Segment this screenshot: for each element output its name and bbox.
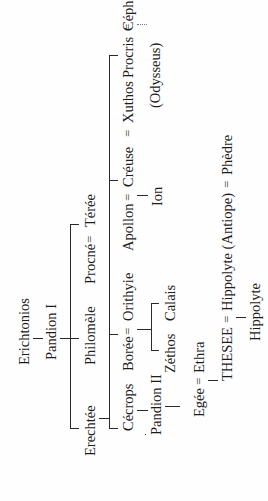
node-egee: Egée [191, 388, 207, 417]
connector-line [208, 380, 218, 381]
connector-line [99, 418, 109, 419]
node-pandion-i: Pandion I [43, 304, 59, 360]
node-xuthos: Xuthos [120, 81, 136, 123]
node-phedre: Phèdre [219, 135, 235, 175]
node-hippolyte: Hippolyte [247, 283, 263, 341]
connector-line [109, 180, 118, 181]
connector-line [33, 338, 43, 339]
connector-line [151, 350, 159, 351]
node-ion: Ion [149, 187, 165, 206]
node-philomele: Philomèle [82, 306, 98, 365]
node-odysseus: (Odysseus) [147, 43, 163, 108]
marriage-symbol: = [219, 181, 235, 188]
node-pandion-ii: Pandion II [148, 374, 164, 435]
node-zethos: Zéthos [162, 334, 178, 373]
marriage-symbol: = [219, 316, 235, 323]
connector-line [137, 195, 148, 196]
connector-line [60, 338, 70, 339]
connector-line [145, 434, 146, 435]
sibling-bar [70, 225, 71, 429]
connector-line [137, 410, 148, 411]
node-erechtee: Erechtée [82, 405, 98, 456]
node-procne: Procné [82, 244, 98, 284]
connector-line [70, 428, 79, 429]
sibling-bar [109, 56, 110, 429]
page-frame: Erichtonios Pandion I Erechtée Philomèle… [0, 0, 268, 501]
sibling-bar [151, 304, 152, 351]
node-calais: Calais [162, 285, 178, 321]
node-teree: Térée [82, 194, 98, 227]
node-thesee: THESEE [219, 327, 235, 381]
node-ethra: Ethra [191, 342, 207, 373]
marriage-symbol: = [120, 328, 136, 335]
marriage-symbol: = [191, 378, 207, 385]
connector-line [137, 329, 151, 330]
node-orithyie: Orithyie [120, 273, 136, 321]
marriage-symbol: = [82, 236, 98, 243]
node-apollon: Apollon [120, 203, 136, 251]
node-creuse: Créuse [120, 147, 136, 187]
node-boree: Borée [120, 336, 136, 371]
node-erichtonios: Erichtonios [16, 298, 32, 365]
node-cecrops: Cécrops [120, 383, 136, 431]
node-procris: Procris [120, 37, 136, 78]
connector-line [165, 406, 180, 407]
connector-line [236, 317, 246, 318]
connector-line [70, 224, 79, 225]
connector-line [109, 334, 118, 335]
marriage-symbol: = [120, 194, 136, 201]
connector-line [109, 428, 118, 429]
dotted-connector [137, 24, 147, 25]
connector-line [151, 303, 159, 304]
node-cephale: Céphale [120, 0, 136, 31]
connector-line [109, 55, 118, 56]
marriage-symbol: = [120, 130, 136, 137]
genealogy-diagram: Erichtonios Pandion I Erechtée Philomèle… [0, 0, 268, 501]
node-hippolyte-antiope: Hippolyte (Antiope) [219, 193, 235, 311]
connector-line [70, 338, 79, 339]
